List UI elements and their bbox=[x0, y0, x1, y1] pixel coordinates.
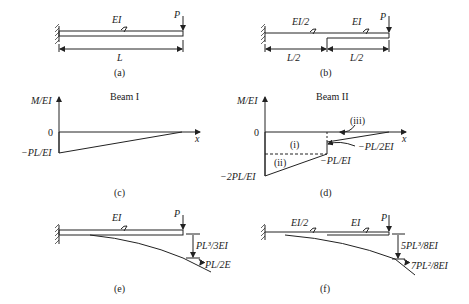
panel-f-ei-right-label: EI bbox=[351, 218, 360, 228]
panel-c-moment-diagram bbox=[59, 97, 200, 153]
panel-f-ei-left-label: EI/2 bbox=[291, 218, 308, 228]
panel-c-x-axis-label: x bbox=[195, 134, 199, 144]
panel-c-caption: (c) bbox=[114, 188, 125, 198]
panel-d-region-i: (i) bbox=[290, 140, 299, 150]
panel-d-zero-label: 0 bbox=[254, 128, 259, 138]
panel-b-load-label: P bbox=[380, 12, 386, 22]
panel-b-span-right-label: L/2 bbox=[350, 53, 363, 63]
panel-c-title: Beam I bbox=[110, 92, 139, 102]
panel-c-zero-label: 0 bbox=[48, 128, 53, 138]
panel-d-min-label: −2PL/EI bbox=[220, 172, 256, 182]
panel-d-region-ii: (ii) bbox=[274, 158, 286, 168]
panel-b-caption: (b) bbox=[320, 68, 332, 78]
panel-e-caption: (e) bbox=[114, 284, 125, 294]
panel-e-slope-label: PL/2E bbox=[205, 260, 231, 270]
panel-a-load-label: P bbox=[174, 10, 180, 20]
panel-e-deflection-label: PL³/3EI bbox=[196, 241, 228, 251]
panel-c-min-label: −PL/EI bbox=[21, 148, 52, 158]
panel-f-deflection-label: 5PL³/8EI bbox=[401, 241, 438, 251]
panel-d-jump-label: −PL/2EI bbox=[358, 142, 394, 152]
panel-a-ei-label: EI bbox=[112, 15, 121, 25]
panel-e-deflected-beam bbox=[55, 215, 211, 272]
panel-d-caption: (d) bbox=[320, 188, 332, 198]
panel-a-caption: (a) bbox=[114, 68, 125, 78]
panel-d-title: Beam II bbox=[316, 92, 349, 102]
panel-d-region-iii: (iii) bbox=[350, 116, 365, 126]
panel-b-span-left-label: L/2 bbox=[287, 53, 300, 63]
panel-b-ei-left-label: EI/2 bbox=[292, 17, 309, 27]
panel-f-deflected-beam bbox=[261, 215, 415, 275]
panel-f-load-label: P bbox=[381, 213, 387, 223]
panel-f-slope-label: 7PL²/8EI bbox=[411, 261, 448, 271]
panel-b-beam bbox=[261, 16, 389, 52]
panel-d-x-axis-label: x bbox=[402, 134, 406, 144]
panel-d-y-axis-label: M/EI bbox=[237, 96, 258, 106]
panel-b-ei-right-label: EI bbox=[352, 17, 361, 27]
beam-diagrams bbox=[0, 0, 469, 304]
panel-f-caption: (f) bbox=[320, 284, 330, 294]
panel-e-ei-label: EI bbox=[112, 213, 121, 223]
panel-e-load-label: P bbox=[174, 209, 180, 219]
panel-a-span-label: L bbox=[117, 53, 123, 63]
panel-c-y-axis-label: M/EI bbox=[31, 96, 52, 106]
panel-d-mid-label: −PL/EI bbox=[320, 156, 351, 166]
